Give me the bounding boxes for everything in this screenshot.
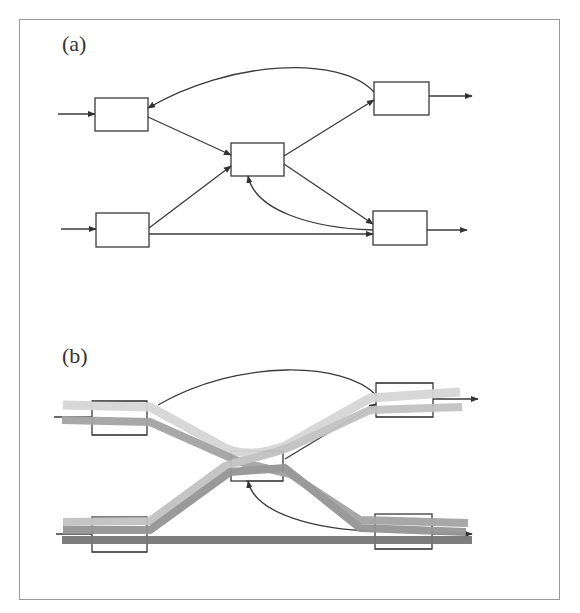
node-in-top: [95, 98, 148, 131]
feedback-outtop-intop: [148, 68, 374, 108]
panel-b: [54, 370, 478, 552]
edge-inbottom-center: [149, 166, 231, 228]
edge-center-outbottom: [284, 164, 373, 224]
feedback-outtop-intop-b: [158, 370, 376, 405]
node-out-bottom: [373, 211, 427, 245]
node-in-bottom: [96, 213, 149, 247]
panel-a: [58, 68, 472, 247]
edge-center-outtop: [284, 100, 374, 156]
feedback-outbottom-center: [248, 176, 373, 230]
node-center: [231, 143, 284, 176]
node-out-top: [374, 82, 429, 115]
edge-intop-center: [148, 117, 231, 155]
flow-diagram: [0, 0, 580, 613]
